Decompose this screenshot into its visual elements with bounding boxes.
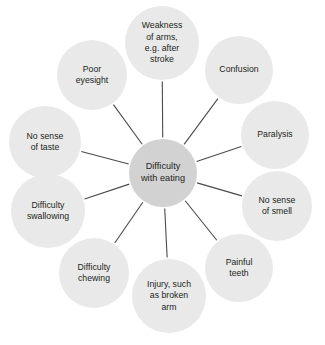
node-difficulty-swallowing[interactable]: Difficulty swallowing <box>11 174 85 248</box>
node-label-confusion: Confusion <box>216 64 261 75</box>
node-label-paralysis: Paralysis <box>254 129 295 140</box>
node-confusion[interactable]: Confusion <box>205 36 273 104</box>
node-paralysis[interactable]: Paralysis <box>241 101 309 169</box>
node-injury-broken-arm[interactable]: Injury, such as broken arm <box>132 259 206 333</box>
spoke-line-poor-eyesight <box>113 105 142 145</box>
spoke-line-no-sense-of-smell <box>197 183 242 196</box>
radial-diagram: Weakness of arms, e.g. after strokeConfu… <box>0 0 325 345</box>
node-label-no-sense-of-smell: No sense of smell <box>256 195 299 218</box>
center-node-difficulty-with-eating[interactable]: Difficulty with eating <box>129 139 197 207</box>
node-label-injury-broken-arm: Injury, such as broken arm <box>144 279 194 313</box>
node-label-weakness-of-arms: Weakness of arms, e.g. after stroke <box>139 20 186 66</box>
node-no-sense-of-taste[interactable]: No sense of taste <box>9 106 81 178</box>
node-label-painful-teeth: Painful teeth <box>223 257 256 280</box>
node-no-sense-of-smell[interactable]: No sense of smell <box>242 171 312 241</box>
node-painful-teeth[interactable]: Painful teeth <box>205 234 273 302</box>
spoke-line-paralysis <box>197 146 242 161</box>
node-weakness-of-arms[interactable]: Weakness of arms, e.g. after stroke <box>125 6 199 80</box>
node-label-difficulty-swallowing: Difficulty swallowing <box>24 200 72 223</box>
node-label-difficulty-chewing: Difficulty chewing <box>75 262 114 285</box>
spoke-line-painful-teeth <box>185 201 217 241</box>
node-difficulty-chewing[interactable]: Difficulty chewing <box>59 238 129 308</box>
node-poor-eyesight[interactable]: Poor eyesight <box>57 40 127 110</box>
node-label-no-sense-of-taste: No sense of taste <box>24 131 67 154</box>
center-node-label: Difficulty with eating <box>138 161 188 185</box>
spoke-line-no-sense-of-taste <box>81 152 128 164</box>
spoke-line-difficulty-swallowing <box>85 184 130 199</box>
spoke-line-difficulty-chewing <box>115 202 143 243</box>
spoke-line-injury-broken-arm <box>165 208 167 257</box>
node-label-poor-eyesight: Poor eyesight <box>73 64 112 87</box>
spoke-line-confusion <box>184 99 218 145</box>
